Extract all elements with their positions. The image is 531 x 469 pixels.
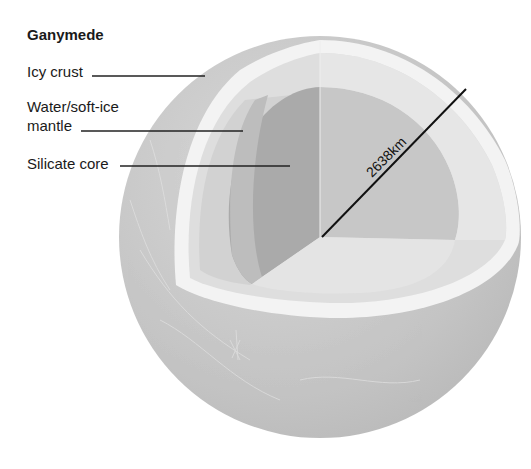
label-silicate-core: Silicate core <box>27 155 109 173</box>
label-icy-crust: Icy crust <box>27 63 83 81</box>
label-mantle-line1: Water/soft-ice <box>27 98 119 116</box>
ganymede-diagram: 2638km Ganymede Icy crust Water/soft-ice… <box>0 0 531 469</box>
diagram-title: Ganymede <box>27 26 104 44</box>
label-mantle-line2: mantle <box>27 117 72 135</box>
